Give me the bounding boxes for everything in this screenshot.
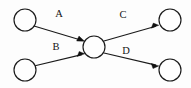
graph-diagram-svg: A B C D [0,0,191,88]
edge-label-d: D [122,45,130,56]
edge-b-line [34,55,82,66]
target-node-bottom-right[interactable] [159,59,181,81]
edge-c-group [104,23,159,41]
edge-c-line [104,26,156,41]
source-node-bottom-left[interactable] [14,59,36,81]
edge-a-arrowhead [77,36,85,41]
graph-diagram-canvas: A B C D [0,0,191,88]
edge-a-line [34,26,82,40]
edge-d-arrowhead [151,63,159,68]
edge-label-a: A [55,8,63,19]
edge-a-group [34,26,85,41]
edge-c-arrowhead [151,23,159,28]
edge-d-line [104,53,156,65]
edge-label-b: B [52,41,59,52]
edge-b-group [34,51,85,66]
target-node-top-right[interactable] [159,9,181,31]
edge-d-group [104,53,159,69]
edge-label-c: C [119,9,126,20]
source-node-top-left[interactable] [14,9,36,31]
hub-node-center[interactable] [83,36,105,58]
